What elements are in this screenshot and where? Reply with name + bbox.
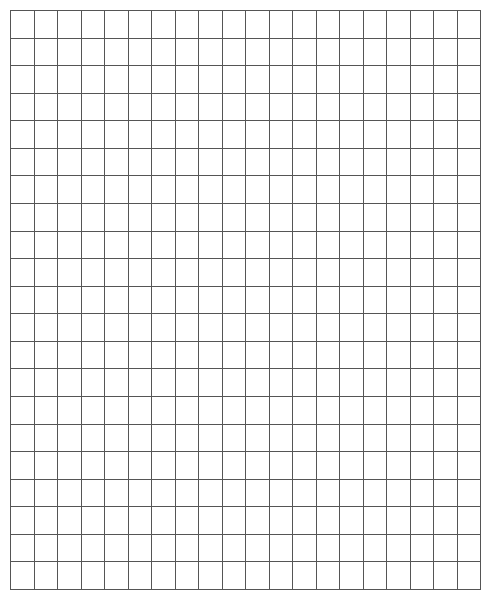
grid-horizontal-line (10, 341, 481, 342)
grid-vertical-line (433, 10, 434, 590)
grid-vertical-line (104, 10, 105, 590)
grid-horizontal-line (10, 10, 481, 11)
grid-horizontal-line (10, 120, 481, 121)
grid-horizontal-line (10, 479, 481, 480)
grid-horizontal-line (10, 589, 481, 590)
grid-horizontal-line (10, 231, 481, 232)
grid-vertical-line (222, 10, 223, 590)
grid-vertical-line (10, 10, 11, 590)
grid-vertical-line (34, 10, 35, 590)
grid-horizontal-line (10, 258, 481, 259)
grid-vertical-line (363, 10, 364, 590)
grid-vertical-line (175, 10, 176, 590)
grid-horizontal-line (10, 396, 481, 397)
grid-vertical-line (57, 10, 58, 590)
grid-horizontal-line (10, 368, 481, 369)
grid-vertical-line (245, 10, 246, 590)
grid-horizontal-line (10, 148, 481, 149)
grid-horizontal-line (10, 313, 481, 314)
grid-vertical-line (339, 10, 340, 590)
graph-paper-grid (10, 10, 480, 589)
grid-horizontal-line (10, 424, 481, 425)
grid-vertical-line (198, 10, 199, 590)
grid-horizontal-line (10, 38, 481, 39)
grid-vertical-line (269, 10, 270, 590)
grid-vertical-line (457, 10, 458, 590)
grid-horizontal-line (10, 451, 481, 452)
grid-horizontal-line (10, 203, 481, 204)
grid-vertical-line (410, 10, 411, 590)
grid-horizontal-line (10, 561, 481, 562)
grid-horizontal-line (10, 506, 481, 507)
grid-vertical-line (386, 10, 387, 590)
grid-horizontal-line (10, 65, 481, 66)
grid-vertical-line (316, 10, 317, 590)
grid-vertical-line (81, 10, 82, 590)
grid-vertical-line (128, 10, 129, 590)
grid-vertical-line (480, 10, 481, 590)
grid-horizontal-line (10, 175, 481, 176)
grid-horizontal-line (10, 93, 481, 94)
grid-horizontal-line (10, 286, 481, 287)
grid-vertical-line (292, 10, 293, 590)
grid-vertical-line (151, 10, 152, 590)
grid-horizontal-line (10, 534, 481, 535)
